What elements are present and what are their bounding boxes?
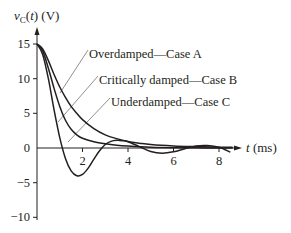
svg-text:8: 8 — [216, 154, 222, 168]
capacitor-voltage-chart: vC(t) (V) t (ms) 15 10 5 0 −5 −10 2 4 6 … — [0, 0, 291, 233]
svg-text:10: 10 — [18, 72, 31, 86]
svg-text:4: 4 — [125, 154, 132, 168]
annotation-overdamped: Overdamped—Case A — [89, 47, 202, 61]
underdamped-curve — [37, 44, 230, 176]
leader-line-underdamped — [68, 98, 110, 142]
annotation-critically-damped: Critically damped—Case B — [99, 73, 237, 87]
svg-text:−5: −5 — [17, 176, 30, 190]
y-tick-labels: 15 10 5 0 −5 −10 — [10, 37, 30, 224]
x-axis-title: t (ms) — [246, 140, 277, 155]
svg-text:−10: −10 — [10, 210, 30, 224]
annotation-underdamped: Underdamped—Case C — [111, 95, 230, 109]
y-axis-arrow-icon — [35, 27, 40, 35]
svg-text:2: 2 — [79, 154, 85, 168]
y-ticks — [33, 44, 37, 217]
svg-text:15: 15 — [18, 37, 31, 51]
y-axis-title: vC(t) (V) — [14, 8, 59, 25]
svg-text:0: 0 — [24, 141, 30, 155]
svg-text:6: 6 — [170, 154, 176, 168]
x-tick-labels: 2 4 6 8 — [79, 154, 222, 168]
svg-text:5: 5 — [24, 106, 30, 120]
leader-line-overdamped — [60, 50, 88, 93]
x-axis-arrow-icon — [234, 146, 242, 151]
